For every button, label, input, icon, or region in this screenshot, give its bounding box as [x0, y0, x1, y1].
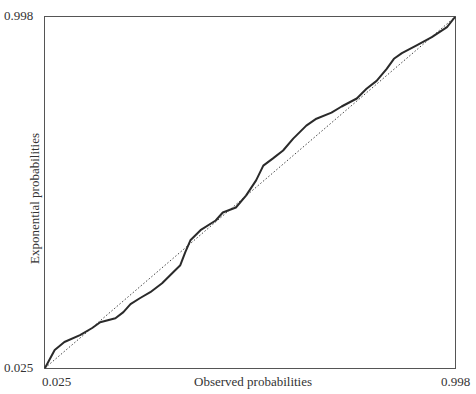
y-axis-title: Exponential probabilities — [27, 133, 43, 264]
y-tick-min: 0.025 — [4, 361, 33, 375]
x-axis-title: Observed probabilities — [194, 374, 312, 390]
reference-line — [45, 17, 455, 368]
x-tick-min: 0.025 — [42, 375, 71, 389]
y-tick-max: 0.998 — [4, 9, 33, 23]
pp-plot — [0, 0, 476, 394]
x-tick-max: 0.998 — [441, 375, 470, 389]
